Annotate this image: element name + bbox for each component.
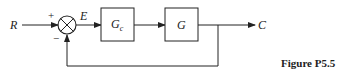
error-label-e: E bbox=[79, 9, 88, 23]
minus-sign: − bbox=[53, 32, 59, 44]
summing-junction bbox=[58, 16, 76, 34]
output-label-c: C bbox=[258, 18, 267, 32]
figure-caption: Figure P5.5 bbox=[281, 57, 336, 69]
plus-sign: + bbox=[48, 9, 54, 21]
input-label-r: R bbox=[9, 18, 18, 32]
plant-block-g: G bbox=[165, 8, 198, 41]
g-label: G bbox=[177, 18, 186, 32]
gc-subscript: c bbox=[120, 24, 124, 33]
controller-block-gc: Gc bbox=[101, 8, 134, 41]
block-diagram: R + − E Gc G C Figure P5.5 bbox=[0, 0, 337, 74]
gc-label: G bbox=[111, 17, 120, 31]
